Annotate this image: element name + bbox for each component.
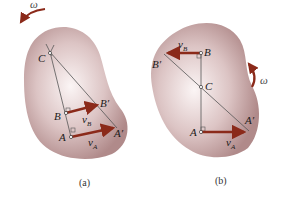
label-Aprime-b: A′ bbox=[244, 114, 255, 126]
omega-arrow-a bbox=[21, 9, 45, 22]
point-C-a bbox=[48, 51, 51, 54]
label-B-b: B bbox=[204, 46, 211, 58]
label-B-a: B bbox=[54, 110, 61, 122]
label-Bprime-b: B′ bbox=[152, 58, 162, 70]
omega-label-a: ω bbox=[30, 0, 38, 10]
point-B-b bbox=[199, 51, 202, 54]
caption-b: (b) bbox=[215, 175, 227, 187]
figure-a: ω C B A B′ A′ vB vA (a) bbox=[21, 0, 128, 189]
figure-b: ω B C A B′ A′ vB vA (b) bbox=[151, 23, 268, 187]
rigid-body-a bbox=[24, 27, 128, 159]
point-A-a bbox=[69, 135, 72, 138]
point-A-b bbox=[199, 130, 202, 133]
omega-label-b: ω bbox=[260, 74, 268, 86]
caption-a: (a) bbox=[79, 177, 90, 189]
label-A-a: A bbox=[58, 131, 66, 143]
label-A-b: A bbox=[189, 126, 197, 138]
label-Bprime-a: B′ bbox=[100, 97, 110, 109]
point-B-a bbox=[64, 111, 67, 114]
point-C-b bbox=[199, 85, 202, 88]
label-C-b: C bbox=[205, 80, 213, 92]
label-C-a: C bbox=[38, 52, 46, 64]
rigid-body-velocity-diagram: ω C B A B′ A′ vB vA (a) ω bbox=[0, 0, 284, 203]
label-Aprime-a: A′ bbox=[113, 127, 124, 139]
